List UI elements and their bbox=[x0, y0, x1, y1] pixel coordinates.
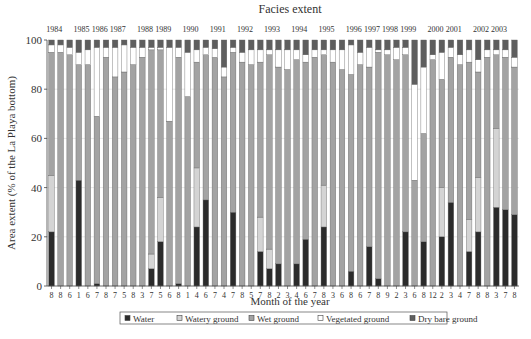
x-tick-label: 12 bbox=[429, 291, 437, 300]
bar-segment-wet-ground bbox=[221, 77, 227, 286]
bar-segment-wet-ground bbox=[139, 57, 145, 286]
bar-segment-water bbox=[203, 200, 209, 286]
bar-segment-watery-ground bbox=[149, 254, 155, 269]
bar-stack bbox=[366, 40, 372, 286]
bar-segment-wet-ground bbox=[248, 65, 254, 286]
bar-segment-dry-bare-ground bbox=[339, 40, 345, 50]
bar-segment-vegetated-ground bbox=[230, 47, 236, 52]
bar-segment-water bbox=[230, 212, 236, 286]
x-tick-label: 7 bbox=[231, 291, 235, 300]
bar-segment-water bbox=[158, 242, 164, 286]
bar-segment-wet-ground bbox=[176, 57, 182, 283]
x-tick-label: 4 bbox=[222, 291, 226, 300]
bar-segment-water bbox=[466, 252, 472, 286]
bar-segment-vegetated-ground bbox=[448, 47, 454, 57]
bar-segment-vegetated-ground bbox=[67, 47, 73, 54]
bar-segment-dry-bare-ground bbox=[493, 40, 499, 50]
x-tick-label: 6 bbox=[86, 291, 90, 300]
bar-segment-vegetated-ground bbox=[330, 50, 336, 62]
bar-segment-dry-bare-ground bbox=[303, 40, 309, 55]
legend-item: Wet ground bbox=[249, 314, 300, 324]
bar-segment-water bbox=[375, 279, 381, 286]
year-label: 1984 bbox=[46, 25, 62, 34]
legend-item: Dry bare ground bbox=[410, 314, 478, 324]
bar-stack bbox=[194, 40, 200, 286]
bar-stack bbox=[421, 40, 427, 286]
bar-segment-wet-ground bbox=[493, 55, 499, 129]
bar-segment-dry-bare-ground bbox=[112, 40, 118, 47]
bar-segment-water bbox=[321, 227, 327, 286]
bar-segment-vegetated-ground bbox=[457, 55, 463, 65]
bar-stack bbox=[512, 40, 518, 286]
bar-segment-dry-bare-ground bbox=[321, 40, 327, 50]
legend-label: Dry bare ground bbox=[418, 314, 478, 324]
bar-segment-vegetated-ground bbox=[357, 52, 363, 64]
x-axis-label: Month of the year bbox=[250, 295, 329, 307]
bar-segment-vegetated-ground bbox=[430, 55, 436, 60]
year-label: 1990 bbox=[182, 25, 198, 34]
bar-segment-wet-ground bbox=[130, 65, 136, 286]
bar-segment-watery-ground bbox=[475, 178, 481, 232]
bar-segment-dry-bare-ground bbox=[139, 40, 145, 47]
bar-segment-dry-bare-ground bbox=[212, 40, 218, 49]
bar-segment-dry-bare-ground bbox=[49, 40, 55, 45]
bar-segment-wet-ground bbox=[475, 72, 481, 178]
bar-stack bbox=[67, 40, 73, 286]
bar-segment-wet-ground bbox=[167, 121, 173, 286]
bar-segment-dry-bare-ground bbox=[330, 40, 336, 50]
y-tick-label: 100 bbox=[26, 34, 43, 46]
x-tick-label: 6 bbox=[68, 291, 72, 300]
x-tick-label: 4 bbox=[195, 291, 199, 300]
bar-segment-water bbox=[76, 180, 82, 286]
bar-segment-dry-bare-ground bbox=[357, 40, 363, 52]
bar-segment-wet-ground bbox=[330, 62, 336, 286]
legend-label: Wet ground bbox=[257, 314, 300, 324]
bar-segment-watery-ground bbox=[158, 197, 164, 241]
bar-segment-vegetated-ground bbox=[176, 47, 182, 57]
bar-segment-dry-bare-ground bbox=[130, 40, 136, 47]
bar-segment-dry-bare-ground bbox=[475, 40, 481, 60]
legend-item: Watery ground bbox=[177, 314, 239, 324]
bar-segment-wet-ground bbox=[121, 72, 127, 286]
bar-segment-vegetated-ground bbox=[158, 47, 164, 49]
x-tick-label: 5 bbox=[122, 291, 126, 300]
bar-segment-water bbox=[421, 242, 427, 286]
bar-stack bbox=[158, 40, 164, 286]
bar-segment-wet-ground bbox=[230, 52, 236, 212]
bar-segment-vegetated-ground bbox=[493, 50, 499, 55]
bar-stack bbox=[375, 40, 381, 286]
bar-segment-dry-bare-ground bbox=[58, 40, 64, 45]
bar-segment-wet-ground bbox=[403, 55, 409, 232]
bar-segment-vegetated-ground bbox=[221, 67, 227, 77]
bar-segment-wet-ground bbox=[276, 67, 282, 264]
legend-label: Watery ground bbox=[185, 314, 239, 324]
x-tick-label: 1 bbox=[77, 291, 81, 300]
year-label: 1993 bbox=[264, 25, 280, 34]
x-tick-label: 3 bbox=[449, 291, 453, 300]
chart-title: Facies extent bbox=[259, 2, 323, 16]
bar-segment-vegetated-ground bbox=[339, 50, 345, 70]
year-label: 2000 bbox=[427, 25, 443, 34]
x-tick-label: 3 bbox=[331, 291, 335, 300]
bar-segment-dry-bare-ground bbox=[366, 40, 372, 47]
bar-stack bbox=[185, 40, 191, 286]
bar-segment-wet-ground bbox=[457, 65, 463, 286]
bar-segment-wet-ground bbox=[512, 67, 518, 215]
x-tick-label: 8 bbox=[476, 291, 480, 300]
x-tick-label: 2 bbox=[440, 291, 444, 300]
bar-segment-dry-bare-ground bbox=[76, 40, 82, 52]
bar-segment-vegetated-ground bbox=[185, 52, 191, 96]
bar-stack bbox=[348, 40, 354, 286]
bar-segment-vegetated-ground bbox=[475, 60, 481, 72]
bar-segment-vegetated-ground bbox=[130, 47, 136, 64]
bar-stack bbox=[412, 40, 418, 286]
bar-segment-vegetated-ground bbox=[421, 67, 427, 133]
bar-segment-water bbox=[493, 207, 499, 286]
bar-segment-water bbox=[448, 202, 454, 286]
bar-segment-dry-bare-ground bbox=[457, 40, 463, 55]
bar-segment-water bbox=[348, 271, 354, 286]
bar-segment-water bbox=[475, 232, 481, 286]
bar-stack bbox=[484, 40, 490, 286]
year-label: 1994 bbox=[291, 25, 307, 34]
bar-segment-vegetated-ground bbox=[276, 50, 282, 67]
